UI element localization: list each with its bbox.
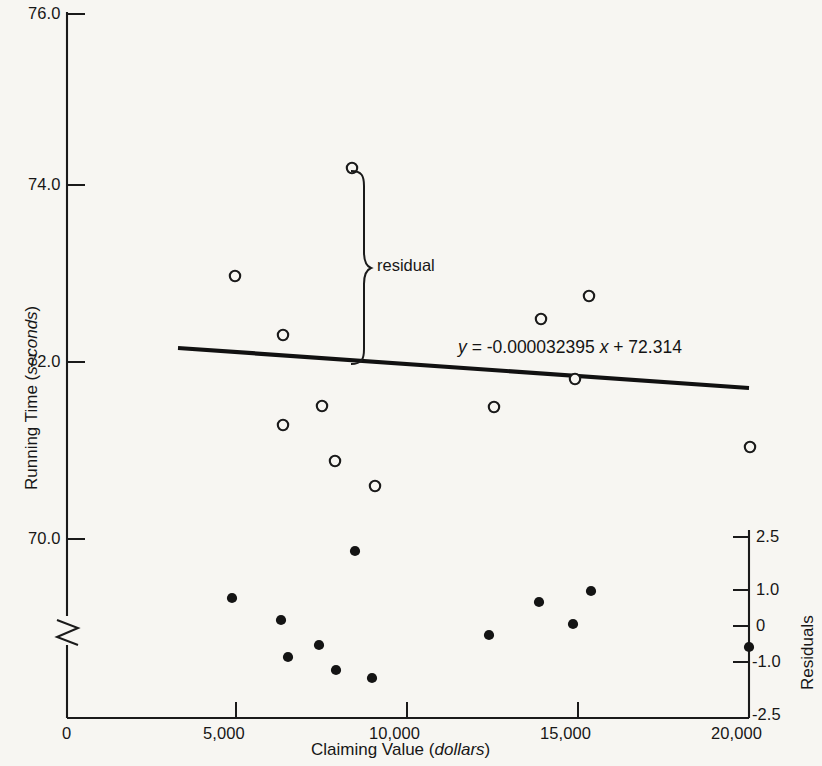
x-tick-label-0: 0: [62, 724, 71, 743]
residual-tick-label--1.0: -1.0: [752, 652, 781, 671]
regression-equation: y = -0.000032395 x + 72.314: [458, 337, 682, 358]
residual-point: [484, 630, 494, 640]
x-axis-title-units: dollars: [434, 740, 484, 759]
residual-point: [568, 619, 578, 629]
x-axis-title: Claiming Value (dollars): [311, 740, 490, 760]
data-point-open: [230, 271, 240, 281]
data-point-open: [317, 401, 327, 411]
x-axis-title-plain: Claiming Value: [311, 740, 424, 759]
y-axis-title: Running Time (seconds): [22, 306, 42, 490]
data-point-open: [489, 402, 499, 412]
y-axis-left: [57, 12, 85, 718]
residual-point: [534, 597, 544, 607]
residual-point: [227, 593, 237, 603]
y-axis-title-units: seconds: [22, 311, 41, 374]
residual-point: [331, 665, 341, 675]
residual-point: [314, 640, 324, 650]
equation-lhs: y: [458, 337, 467, 357]
y-tick-label-76: 76.0: [28, 4, 61, 23]
scatter-filled-markers: [227, 546, 754, 683]
data-point-open: [278, 420, 288, 430]
data-point-open: [330, 456, 340, 466]
y-tick-label-70: 70.0: [28, 529, 61, 548]
residual-annotation-label: residual: [377, 256, 435, 275]
residual-brace: [351, 171, 371, 364]
residual-point: [586, 586, 596, 596]
equation-slope: -0.000032395: [487, 337, 595, 357]
residual-axis-title: Residuals: [798, 615, 818, 690]
data-point-open: [745, 442, 755, 452]
residual-tick-label--2.5: -2.5: [752, 705, 781, 724]
equation-operator: =: [472, 337, 482, 357]
residual-point: [276, 615, 286, 625]
scatter-plot-figure: 76.0 74.0 72.0 70.0 0 5,000 10,000 15,00…: [0, 0, 822, 766]
residual-point: [367, 673, 377, 683]
data-point-open-on-line: [570, 374, 580, 384]
residual-point: [744, 642, 754, 652]
y-axis-ticks: [67, 14, 85, 539]
data-point-open: [278, 330, 288, 340]
y-axis-title-plain: Running Time: [22, 385, 41, 490]
y-axis-break-icon: [57, 620, 78, 645]
residual-tick-label-2.5: 2.5: [756, 527, 779, 546]
data-point-open: [536, 314, 546, 324]
plot-canvas: [0, 0, 822, 766]
residual-point: [283, 652, 293, 662]
scatter-open-markers: [230, 163, 755, 491]
residual-point: [350, 546, 360, 556]
y-axis-right-residuals: [733, 530, 749, 718]
residual-tick-label-1.0: 1.0: [756, 580, 779, 599]
x-axis: [67, 702, 749, 718]
x-tick-label-5000: 5,000: [203, 724, 245, 743]
equation-intercept: + 72.314: [613, 337, 682, 357]
residual-tick-label-0: 0: [756, 616, 765, 635]
data-point-open: [370, 481, 380, 491]
equation-variable: x: [600, 337, 609, 357]
data-point-open: [584, 291, 594, 301]
y-tick-label-74: 74.0: [28, 175, 61, 194]
x-tick-label-20000: 20,000: [711, 724, 762, 743]
x-tick-label-15000: 15,000: [540, 724, 591, 743]
x-axis-ticks: [236, 702, 578, 718]
